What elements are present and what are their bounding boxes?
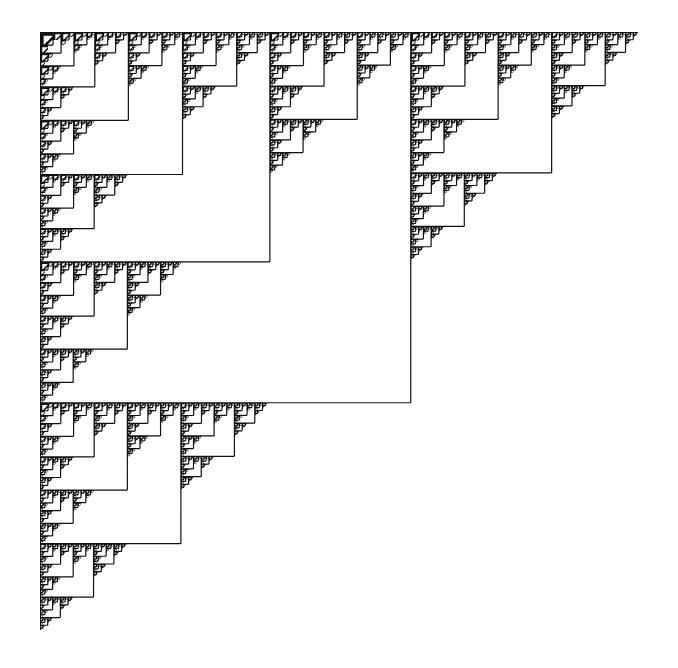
fractal-figure (0, 0, 678, 668)
